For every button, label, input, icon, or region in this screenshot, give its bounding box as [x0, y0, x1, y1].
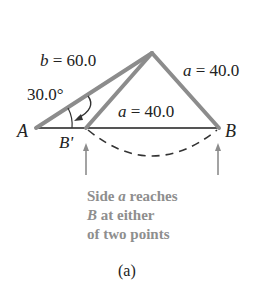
angle-arc: [68, 108, 72, 128]
vertex-b-prime-label: B': [59, 134, 73, 151]
figure-caption: (a): [118, 262, 136, 280]
dashed-arc: [88, 130, 217, 156]
label-angle: 30.0°: [27, 86, 64, 103]
note-line-2: B at either: [87, 206, 178, 225]
label-a-right-var: a: [183, 61, 192, 80]
vertex-a-label: A: [17, 122, 28, 140]
triangle-diagram: [0, 0, 275, 301]
note-var-a: a: [118, 188, 126, 204]
label-a-inner: a = 40.0: [118, 103, 174, 120]
note-line-1: Side a reaches: [87, 187, 178, 206]
note-var-b: B: [87, 207, 97, 223]
label-b: b = 60.0: [40, 52, 96, 69]
label-a-inner-value: = 40.0: [127, 102, 175, 121]
label-a-inner-var: a: [118, 102, 127, 121]
arrowhead-left: [83, 143, 89, 151]
label-b-var: b: [40, 51, 49, 70]
label-a-right: a = 40.0: [183, 62, 239, 79]
angle-pointer-arrowhead: [74, 114, 83, 121]
vertex-b-label: B: [225, 122, 236, 140]
label-a-right-value: = 40.0: [192, 61, 240, 80]
explanation-note: Side a reaches B at either of two points: [87, 187, 178, 244]
note-text: at either: [97, 207, 154, 223]
arrowhead-right: [215, 143, 221, 151]
note-line-3: of two points: [87, 225, 178, 244]
note-text: Side: [87, 188, 118, 204]
note-text: reaches: [126, 188, 178, 204]
label-b-value: = 60.0: [49, 51, 97, 70]
